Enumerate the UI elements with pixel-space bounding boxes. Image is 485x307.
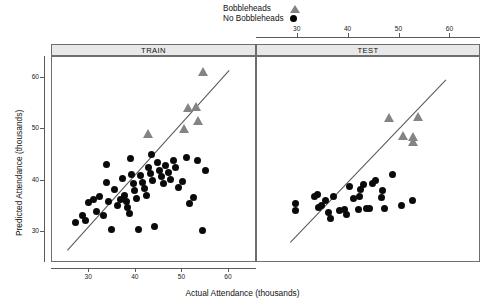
data-point-no-bobblehead — [170, 157, 177, 164]
data-point-no-bobblehead — [162, 162, 169, 169]
data-point-no-bobblehead — [135, 226, 142, 233]
x-tick-test — [449, 33, 450, 37]
data-point-no-bobblehead — [378, 194, 385, 201]
data-point-bobblehead — [143, 129, 153, 138]
reference-line — [67, 70, 230, 251]
data-point-no-bobblehead — [127, 155, 134, 162]
x-tick-train — [228, 268, 229, 272]
data-point-no-bobblehead — [93, 208, 100, 215]
data-point-no-bobblehead — [85, 199, 92, 206]
data-point-no-bobblehead — [372, 177, 379, 184]
data-point-no-bobblehead — [194, 157, 201, 164]
y-tick-label-left: 50 — [25, 124, 39, 131]
panel-strip-train: TRAIN — [51, 44, 256, 56]
y-tick-left — [40, 77, 44, 78]
y-tick-left — [40, 180, 44, 181]
data-point-no-bobblehead — [186, 200, 193, 207]
data-point-no-bobblehead — [409, 197, 416, 204]
data-point-no-bobblehead — [190, 194, 197, 201]
data-point-bobblehead — [193, 116, 203, 125]
x-axis-line-train — [51, 268, 256, 269]
data-point-no-bobblehead — [160, 180, 167, 187]
x-tick-label-test: 40 — [338, 25, 358, 32]
y-tick-left — [40, 128, 44, 129]
data-point-no-bobblehead — [172, 164, 179, 171]
data-point-no-bobblehead — [154, 159, 161, 166]
data-point-no-bobblehead — [82, 217, 89, 224]
data-point-no-bobblehead — [175, 184, 182, 191]
data-point-no-bobblehead — [105, 198, 112, 205]
data-point-bobblehead — [191, 102, 201, 111]
x-tick-test — [297, 33, 298, 37]
scatter-panel-train — [51, 56, 256, 262]
data-point-no-bobblehead — [119, 175, 126, 182]
data-point-no-bobblehead — [149, 177, 156, 184]
x-tick-label-test: 50 — [389, 25, 409, 32]
data-point-no-bobblehead — [343, 211, 350, 218]
x-tick-test — [348, 33, 349, 37]
data-point-no-bobblehead — [183, 154, 190, 161]
data-point-no-bobblehead — [355, 206, 362, 213]
data-point-no-bobblehead — [130, 180, 137, 187]
x-tick-train — [181, 268, 182, 272]
y-tick-label-left: 60 — [25, 73, 39, 80]
data-point-bobblehead — [179, 124, 189, 133]
data-point-no-bobblehead — [389, 171, 396, 178]
y-axis-label: Predicted Attendance (thousands) — [14, 110, 24, 236]
circle-icon — [290, 15, 297, 22]
data-point-no-bobblehead — [131, 187, 138, 194]
data-point-no-bobblehead — [165, 169, 172, 176]
data-point-no-bobblehead — [327, 215, 334, 222]
reference-line — [290, 80, 446, 243]
x-tick-label-train: 50 — [171, 273, 191, 280]
scatter-panel-test — [256, 56, 480, 262]
data-point-no-bobblehead — [179, 178, 186, 185]
data-point-no-bobblehead — [108, 226, 115, 233]
data-point-no-bobblehead — [360, 181, 367, 188]
chart-canvas: Bobbleheads No Bobbleheads TRAIN TEST 30… — [0, 0, 485, 307]
data-point-no-bobblehead — [96, 193, 103, 200]
data-point-bobblehead — [198, 67, 208, 76]
data-point-no-bobblehead — [379, 187, 386, 194]
data-point-no-bobblehead — [111, 186, 118, 193]
data-point-no-bobblehead — [314, 191, 321, 198]
data-point-bobblehead — [408, 137, 418, 146]
data-point-no-bobblehead — [292, 200, 299, 207]
x-tick-label-train: 40 — [125, 273, 145, 280]
data-point-no-bobblehead — [72, 219, 79, 226]
x-tick-label-test: 30 — [287, 25, 307, 32]
data-point-no-bobblehead — [137, 172, 144, 179]
data-point-bobblehead — [413, 112, 423, 121]
data-point-no-bobblehead — [103, 161, 110, 168]
y-tick-label-left: 40 — [25, 176, 39, 183]
data-point-no-bobblehead — [202, 167, 209, 174]
x-tick-train — [88, 268, 89, 272]
legend-label-no-bobbleheads: No Bobbleheads — [223, 14, 284, 23]
legend-label-bobbleheads: Bobbleheads — [223, 4, 271, 13]
data-point-no-bobblehead — [151, 223, 158, 230]
data-point-bobblehead — [384, 113, 394, 122]
data-point-no-bobblehead — [381, 205, 388, 212]
data-point-no-bobblehead — [148, 151, 155, 158]
data-point-no-bobblehead — [330, 193, 337, 200]
triangle-icon — [290, 5, 300, 13]
y-tick-label-left: 30 — [25, 227, 39, 234]
data-point-no-bobblehead — [114, 202, 121, 209]
data-point-no-bobblehead — [103, 179, 110, 186]
y-axis-line — [44, 56, 45, 262]
x-tick-label-test: 60 — [439, 25, 459, 32]
data-point-no-bobblehead — [356, 193, 363, 200]
x-tick-label-train: 60 — [218, 273, 238, 280]
x-tick-test — [399, 33, 400, 37]
x-tick-label-train: 30 — [78, 273, 98, 280]
data-point-no-bobblehead — [346, 183, 353, 190]
x-axis-label: Actual Attendance (thousands) — [0, 288, 485, 298]
data-point-no-bobblehead — [398, 202, 405, 209]
data-point-no-bobblehead — [133, 195, 140, 202]
y-tick-left — [40, 231, 44, 232]
data-point-no-bobblehead — [167, 176, 174, 183]
data-point-no-bobblehead — [100, 212, 107, 219]
panel-strip-test: TEST — [256, 44, 480, 56]
data-point-no-bobblehead — [143, 192, 150, 199]
data-point-no-bobblehead — [126, 210, 133, 217]
